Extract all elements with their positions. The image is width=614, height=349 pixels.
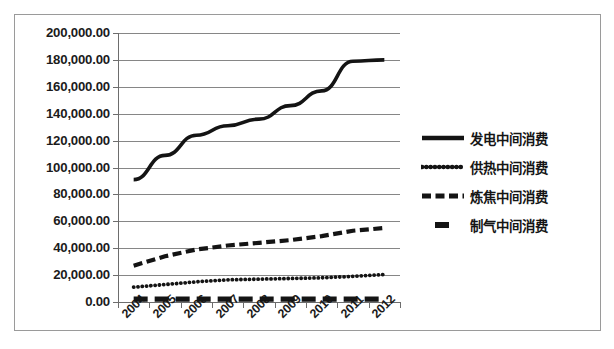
- legend-item-label: 发电中间消费: [470, 128, 548, 148]
- legend-line-sample-icon: [421, 218, 465, 232]
- legend-line-sample-icon: [421, 160, 465, 174]
- legend-item[interactable]: 制气中间消费: [421, 210, 599, 239]
- legend-item-label: 制气中间消费: [470, 215, 548, 235]
- series-line-1: [134, 60, 385, 180]
- legend-line-sample-icon: [421, 189, 465, 203]
- chart-frame: 200,000.00180,000.00160,000.00140,000.00…: [14, 14, 601, 331]
- legend-line-sample-icon: [421, 131, 465, 145]
- chart-legend: 发电中间消费供热中间消费炼焦中间消费制气中间消费: [421, 123, 599, 239]
- legend-item-label: 供热中间消费: [470, 157, 548, 177]
- legend-item-label: 炼焦中间消费: [470, 186, 548, 206]
- legend-item[interactable]: 供热中间消费: [421, 152, 599, 181]
- series-line-2: [134, 274, 385, 287]
- legend-item[interactable]: 发电中间消费: [421, 123, 599, 152]
- legend-item[interactable]: 炼焦中间消费: [421, 181, 599, 210]
- series-line-3: [134, 228, 385, 266]
